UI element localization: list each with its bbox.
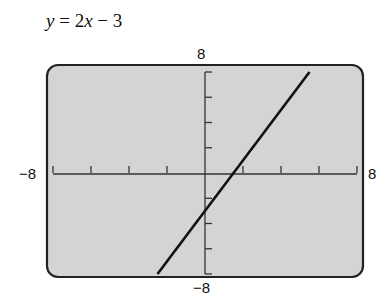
y-min-label: −8 xyxy=(193,279,210,296)
x-min-label: −8 xyxy=(19,165,36,182)
y-max-label: 8 xyxy=(197,45,205,62)
x-max-label: 8 xyxy=(368,165,376,182)
graph-screen xyxy=(0,0,391,302)
